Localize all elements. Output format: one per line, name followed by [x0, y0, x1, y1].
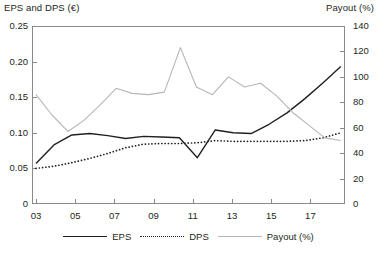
x-tick-label: 13: [221, 210, 243, 221]
solid-line-key: [63, 233, 107, 240]
right-tick-label: 140: [353, 20, 377, 31]
legend-item[interactable]: DPS: [140, 231, 209, 242]
light-line-key: [218, 233, 262, 240]
right-axis-title: Payout (%): [326, 2, 374, 13]
right-tick-label: 20: [353, 173, 377, 184]
legend-item[interactable]: EPS: [63, 231, 131, 242]
legend-label: Payout (%): [267, 231, 314, 242]
legend-label: DPS: [189, 231, 209, 242]
x-tick-label: 09: [143, 210, 165, 221]
series-line-payout: [36, 48, 341, 141]
x-tick-label: 11: [182, 210, 204, 221]
dotted-line-key: [140, 233, 184, 240]
right-tick-label: 80: [353, 96, 377, 107]
left-tick-label: 0.20: [0, 56, 28, 67]
right-tick-label: 60: [353, 122, 377, 133]
chart-legend: EPSDPSPayout (%): [0, 231, 377, 242]
plot-area: [32, 26, 345, 204]
x-tick-label: 07: [103, 210, 125, 221]
x-tick-label: 05: [64, 210, 86, 221]
x-tick-label: 03: [25, 210, 47, 221]
right-tick-label: 40: [353, 147, 377, 158]
x-tick-label: 15: [260, 210, 282, 221]
right-tick-label: 100: [353, 71, 377, 82]
left-tick-label: 0.25: [0, 20, 28, 31]
left-tick-label: 0.15: [0, 91, 28, 102]
legend-label: EPS: [112, 231, 131, 242]
left-axis-title: EPS and DPS (€): [4, 2, 79, 13]
left-tick-label: 0.05: [0, 162, 28, 173]
legend-item[interactable]: Payout (%): [218, 231, 314, 242]
left-tick-label: 0.10: [0, 127, 28, 138]
chart-figure: EPS and DPS (€) Payout (%) 00.050.100.15…: [0, 0, 377, 255]
x-tick-label: 17: [299, 210, 321, 221]
right-tick-label: 0: [353, 198, 377, 209]
right-tick-label: 120: [353, 45, 377, 56]
series-lines: [32, 26, 345, 204]
series-line-dps: [36, 133, 341, 169]
left-tick-label: 0: [0, 198, 28, 209]
